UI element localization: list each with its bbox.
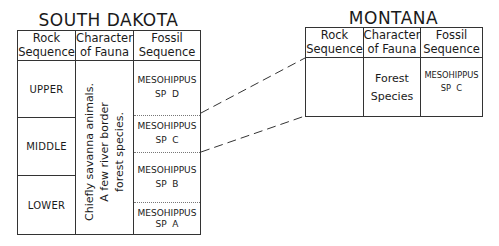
correlation-line-lower [201, 116, 305, 152]
correlation-line-upper [201, 58, 305, 113]
correlation-lines [0, 0, 499, 246]
